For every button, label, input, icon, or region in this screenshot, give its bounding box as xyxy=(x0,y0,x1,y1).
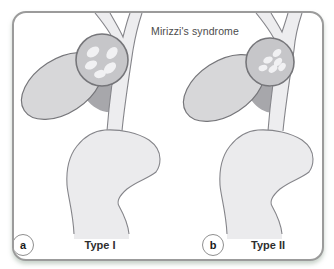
figure-canvas: Mirizzi's syndrome xyxy=(0,0,334,269)
type1-anatomy-illustration xyxy=(14,13,167,239)
type1-label: Type I xyxy=(60,239,140,251)
type2-anatomy-illustration xyxy=(167,13,320,239)
impacted-stone-pouch xyxy=(76,34,128,86)
panel-marker-b: b xyxy=(202,234,224,256)
panel-marker-a-letter: a xyxy=(20,239,26,251)
type2-label: Type II xyxy=(228,239,308,251)
duodenum-shape xyxy=(67,130,160,239)
duodenum-shape xyxy=(220,130,313,239)
figure-frame: Mirizzi's syndrome xyxy=(12,11,324,261)
panel-marker-a: a xyxy=(12,234,34,256)
panel-marker-b-letter: b xyxy=(210,239,217,251)
